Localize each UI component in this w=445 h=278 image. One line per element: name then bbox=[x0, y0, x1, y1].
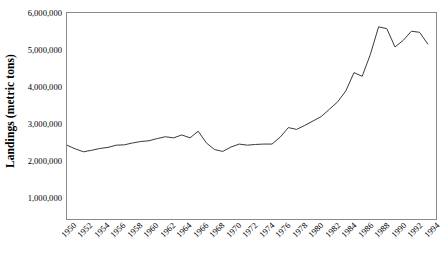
x-axis-tick-label: 1960 bbox=[142, 221, 161, 240]
x-axis-tick-label: 1984 bbox=[340, 221, 359, 240]
y-axis-tick-label: 1,000,000 bbox=[18, 194, 62, 203]
plot-area bbox=[66, 12, 437, 220]
x-axis-tick-label-text: 1994 bbox=[423, 221, 442, 240]
x-axis-tick-label-text: 1952 bbox=[76, 221, 95, 240]
x-axis-tick-label-text: 1960 bbox=[142, 221, 161, 240]
x-axis-tick-label-text: 1972 bbox=[241, 221, 260, 240]
x-axis-tick-label: 1952 bbox=[76, 221, 95, 240]
landings-line bbox=[67, 27, 428, 152]
x-axis-tick-label: 1964 bbox=[175, 221, 194, 240]
y-axis-tick-label: 2,000,000 bbox=[18, 157, 62, 166]
x-axis-tick-label: 1994 bbox=[423, 221, 442, 240]
y-axis-title-label: Landings (metric tons) bbox=[4, 54, 16, 168]
x-axis-tick-label: 1972 bbox=[241, 221, 260, 240]
x-axis-tick-labels: 1950195219541956195819601962196419661968… bbox=[66, 221, 437, 278]
x-axis-tick-label-text: 1984 bbox=[340, 221, 359, 240]
y-axis-tick-label: 3,000,000 bbox=[18, 120, 62, 129]
x-axis-tick-label-text: 1988 bbox=[373, 221, 392, 240]
y-axis-tick-label: 6,000,000 bbox=[18, 9, 62, 18]
x-axis-tick-label-text: 1992 bbox=[406, 221, 425, 240]
x-axis-tick-label-text: 1964 bbox=[175, 221, 194, 240]
x-axis-tick-label-text: 1956 bbox=[109, 221, 128, 240]
y-axis-title: Landings (metric tons) bbox=[0, 0, 20, 222]
x-axis-tick-label: 1992 bbox=[406, 221, 425, 240]
y-axis-tick-label: 4,000,000 bbox=[18, 83, 62, 92]
y-axis-tick-label: 5,000,000 bbox=[18, 46, 62, 55]
chart-container: Landings (metric tons) 6,000,0005,000,00… bbox=[0, 0, 445, 278]
x-axis-tick-label: 1976 bbox=[274, 221, 293, 240]
x-axis-tick-label: 1988 bbox=[373, 221, 392, 240]
y-axis-tick-labels: 6,000,0005,000,0004,000,0003,000,0002,00… bbox=[18, 0, 62, 278]
x-axis-tick-label: 1956 bbox=[109, 221, 128, 240]
line-series-svg bbox=[67, 13, 436, 219]
x-axis-tick-label: 1968 bbox=[208, 221, 227, 240]
x-axis-tick-label-text: 1980 bbox=[307, 221, 326, 240]
x-axis-tick-label: 1980 bbox=[307, 221, 326, 240]
x-axis-tick-label-text: 1976 bbox=[274, 221, 293, 240]
x-axis-tick-label-text: 1968 bbox=[208, 221, 227, 240]
